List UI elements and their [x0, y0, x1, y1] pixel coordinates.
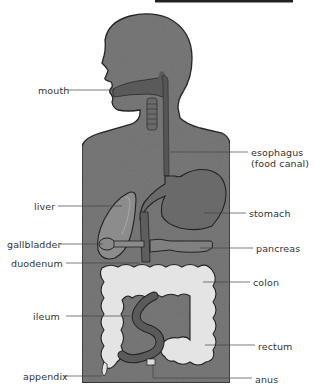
label-esophagus-subtext: (food canal) — [251, 158, 309, 169]
pancreas — [150, 239, 213, 252]
duodenum — [140, 212, 150, 262]
label-gallbladder: gallbladder — [7, 239, 62, 250]
digestive-system-diagram — [0, 0, 315, 387]
label-esophagus: esophagus — [251, 147, 303, 158]
label-mouth: mouth — [38, 85, 69, 96]
anus — [147, 359, 155, 365]
label-anus: anus — [255, 374, 278, 385]
label-colon: colon — [253, 277, 279, 288]
label-ileum: ileum — [33, 311, 60, 322]
label-appendix: appendix — [23, 371, 68, 382]
trachea — [147, 98, 157, 130]
title-bar — [155, 0, 293, 3]
label-liver: liver — [34, 201, 55, 212]
label-duodenum: duodenum — [11, 258, 63, 269]
label-stomach: stomach — [249, 208, 291, 219]
label-rectum: rectum — [258, 341, 292, 352]
label-pancreas: pancreas — [256, 243, 300, 254]
